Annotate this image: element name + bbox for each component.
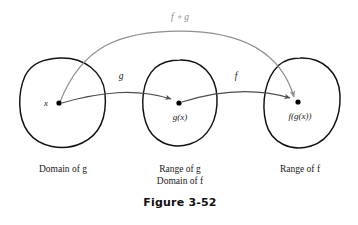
arrow-label-f-compose-g: f ∘ g xyxy=(171,13,189,23)
set-caption-line: Domain of g xyxy=(39,163,87,175)
set-caption-line: Range of f xyxy=(280,163,320,175)
set-caption-line: Domain of f xyxy=(157,175,203,187)
arrow-path-f xyxy=(182,92,290,102)
set-blob-range-of-f xyxy=(264,58,340,148)
figure-container: f ∘ g g f x g(x) f(g(x)) Domain of g Ran… xyxy=(0,0,358,225)
point-label-x: x xyxy=(44,99,48,108)
figure-caption: Figure 3-52 xyxy=(143,197,216,208)
set-caption-range-of-f: Range of f xyxy=(280,163,320,175)
point-label-gx: g(x) xyxy=(173,113,188,122)
arrow-path-f-compose-g xyxy=(60,31,294,102)
arrow-label-f: f xyxy=(235,72,238,82)
point-label-fgx: f(g(x)) xyxy=(289,112,312,121)
set-caption-line: Range of g xyxy=(157,163,203,175)
point-fgx xyxy=(295,99,300,104)
point-gx xyxy=(176,100,181,105)
arrow-path-g xyxy=(62,92,171,103)
point-x xyxy=(56,100,61,105)
set-caption-domain-of-g: Domain of g xyxy=(39,163,87,175)
arrow-label-g: g xyxy=(119,72,124,82)
set-caption-range-of-g-domain-of-f: Range of g Domain of f xyxy=(157,163,203,187)
